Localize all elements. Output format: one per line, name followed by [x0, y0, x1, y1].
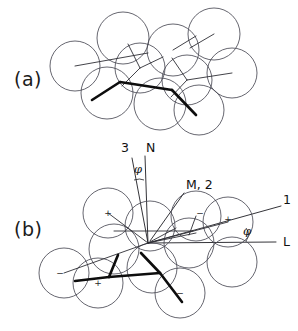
panel-label-b: (b) — [14, 218, 42, 240]
charge-sign: − — [56, 268, 64, 278]
figure-background — [0, 0, 298, 331]
axis-N-label: N — [146, 140, 155, 155]
charge-sign: − — [196, 208, 204, 218]
axis-3-label: 3 — [121, 140, 129, 155]
charge-sign: − — [176, 288, 184, 298]
figure-root: (a) −++−−+ 3NφM, 21Lφ (b) — [0, 0, 298, 331]
axis-M2-label: M, 2 — [186, 177, 213, 192]
panel-label-a: (a) — [14, 68, 42, 90]
axis-1-label: 1 — [283, 192, 291, 207]
angle-phi-lower-label: φ — [243, 224, 251, 238]
charge-sign: + — [224, 214, 232, 224]
charge-sign: + — [94, 278, 102, 288]
packing-diagram-svg: (a) −++−−+ 3NφM, 21Lφ (b) — [0, 0, 298, 331]
angle-phi-upper-label: φ — [134, 162, 142, 176]
axis-L-label: L — [283, 234, 290, 249]
charge-sign: + — [104, 208, 112, 218]
